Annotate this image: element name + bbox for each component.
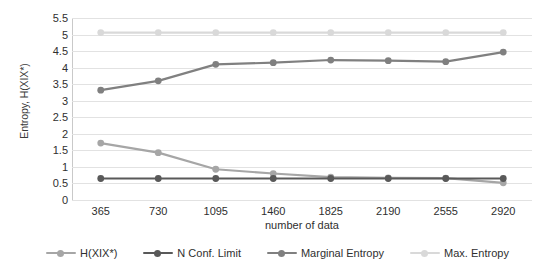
series-layer bbox=[72, 18, 532, 200]
y-axis-tick-label: 3.5 bbox=[30, 79, 68, 89]
x-axis-tick-label: 2190 bbox=[376, 205, 400, 217]
x-axis-tick-label: 2920 bbox=[491, 205, 515, 217]
legend-swatch-icon bbox=[46, 248, 76, 258]
data-point bbox=[97, 175, 104, 182]
legend-swatch-icon bbox=[267, 248, 297, 258]
y-axis-tick-label: 4 bbox=[30, 63, 68, 73]
x-axis-tick-label: 1095 bbox=[204, 205, 228, 217]
y-axis-tick-label: 4.5 bbox=[30, 46, 68, 56]
x-axis-tick-label: 365 bbox=[92, 205, 110, 217]
y-axis-tick-labels: 00.511.522.533.544.555.5 bbox=[26, 18, 68, 200]
data-point bbox=[155, 77, 162, 84]
legend-label: Marginal Entropy bbox=[301, 247, 384, 259]
y-axis-tick-label: 5.5 bbox=[30, 13, 68, 23]
legend-label: N Conf. Limit bbox=[177, 247, 241, 259]
chart-legend: H(XIX*)N Conf. LimitMarginal EntropyMax.… bbox=[0, 243, 555, 263]
data-point bbox=[327, 29, 334, 36]
data-point bbox=[155, 149, 162, 156]
legend-swatch-icon bbox=[143, 248, 173, 258]
data-point bbox=[97, 140, 104, 147]
data-point bbox=[442, 175, 449, 182]
x-axis-tick-label: 1825 bbox=[319, 205, 343, 217]
data-point bbox=[442, 29, 449, 36]
legend-item[interactable]: Marginal Entropy bbox=[267, 247, 384, 259]
data-point bbox=[270, 175, 277, 182]
y-axis-tick-label: 1.5 bbox=[30, 145, 68, 155]
legend-label: Max. Entropy bbox=[444, 247, 509, 259]
legend-item[interactable]: Max. Entropy bbox=[410, 247, 509, 259]
data-point bbox=[385, 57, 392, 64]
y-axis-tick-label: 0 bbox=[30, 195, 68, 205]
x-axis-title: number of data bbox=[72, 219, 532, 231]
data-point bbox=[155, 175, 162, 182]
y-axis-tick-label: 2.5 bbox=[30, 112, 68, 122]
legend-item[interactable]: H(XIX*) bbox=[46, 247, 117, 259]
legend-item[interactable]: N Conf. Limit bbox=[143, 247, 241, 259]
data-point bbox=[97, 87, 104, 94]
data-point bbox=[155, 29, 162, 36]
data-point bbox=[500, 49, 507, 56]
data-point bbox=[212, 61, 219, 68]
data-point bbox=[212, 29, 219, 36]
data-point bbox=[500, 29, 507, 36]
x-axis-tick-label: 730 bbox=[149, 205, 167, 217]
y-axis-tick-label: 2 bbox=[30, 129, 68, 139]
legend-swatch-icon bbox=[410, 248, 440, 258]
data-point bbox=[385, 175, 392, 182]
data-point bbox=[212, 166, 219, 173]
data-point bbox=[500, 175, 507, 182]
legend-label: H(XIX*) bbox=[80, 247, 117, 259]
x-axis-tick-label: 2555 bbox=[434, 205, 458, 217]
y-axis-tick-label: 1 bbox=[30, 162, 68, 172]
data-point bbox=[385, 29, 392, 36]
entropy-line-chart: Entropy, H(XIX*) 00.511.522.533.544.555.… bbox=[0, 0, 555, 275]
data-point bbox=[442, 58, 449, 65]
data-point bbox=[327, 57, 334, 64]
x-axis-tick-label: 1460 bbox=[261, 205, 285, 217]
plot-area bbox=[72, 18, 532, 200]
data-point bbox=[212, 175, 219, 182]
series-line bbox=[101, 52, 504, 90]
y-axis-tick-label: 3 bbox=[30, 96, 68, 106]
data-point bbox=[270, 29, 277, 36]
y-axis-tick-label: 5 bbox=[30, 30, 68, 40]
data-point bbox=[270, 59, 277, 66]
gridline bbox=[72, 200, 532, 201]
data-point bbox=[327, 175, 334, 182]
series-max-entropy bbox=[97, 29, 506, 36]
series-marginal-entropy bbox=[97, 49, 506, 94]
data-point bbox=[97, 29, 104, 36]
y-axis-tick-label: 0.5 bbox=[30, 178, 68, 188]
